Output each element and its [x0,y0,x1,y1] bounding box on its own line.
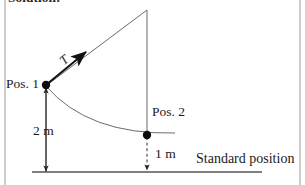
height-1m-label: 1 m [155,147,176,161]
solution-heading: Solution: [8,0,61,5]
pos1-marker-dot [42,81,50,89]
pendulum-rod-line [47,10,147,85]
standard-position-label: Standard position [196,152,294,166]
pos1-label: Pos. 1 [6,77,39,91]
pos2-label: Pos. 2 [152,105,185,119]
figure-canvas: Solution: Pos. 1 Pos. 2 T 2 m 1 m Standa… [0,0,305,185]
pos2-marker-dot [143,131,151,139]
height-2m-label: 2 m [33,124,54,138]
